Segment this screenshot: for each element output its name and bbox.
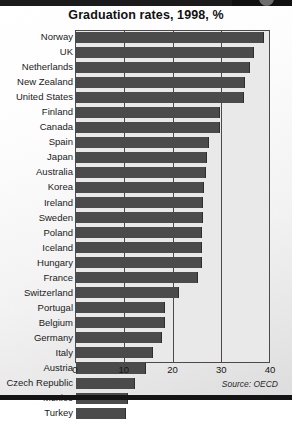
category-label: Sweden — [0, 212, 73, 224]
bar — [76, 272, 198, 283]
bar — [76, 182, 204, 193]
bar — [76, 332, 162, 343]
bar — [76, 32, 264, 43]
chart-title: Graduation rates, 1998, % — [0, 8, 292, 22]
category-label: New Zealand — [0, 76, 73, 88]
x-tick-label: 10 — [118, 364, 129, 375]
bar-row: Hungary — [0, 256, 292, 271]
bar-row: New Zealand — [0, 75, 292, 90]
bar — [76, 257, 202, 268]
bar — [76, 287, 179, 298]
bar-row: Switzerland — [0, 286, 292, 301]
category-label: Finland — [0, 106, 73, 118]
category-label: Portugal — [0, 302, 73, 314]
bar-row: Iceland — [0, 241, 292, 256]
category-label: Japan — [0, 151, 73, 163]
bar — [76, 197, 203, 208]
bar-row: Korea — [0, 180, 292, 195]
category-label: Hungary — [0, 257, 73, 269]
bar — [76, 107, 220, 118]
category-label: Belgium — [0, 317, 73, 329]
bar-row: Finland — [0, 105, 292, 120]
bar — [76, 167, 206, 178]
category-label: Poland — [0, 227, 73, 239]
category-label: Czech Republic — [0, 377, 73, 389]
bar-row: Australia — [0, 165, 292, 180]
category-label: Netherlands — [0, 61, 73, 73]
x-tick-label: 20 — [167, 364, 178, 375]
category-label: Spain — [0, 136, 73, 148]
bar — [76, 92, 244, 103]
bar — [76, 47, 254, 58]
category-label: France — [0, 272, 73, 284]
category-label: Canada — [0, 121, 73, 133]
bar — [76, 302, 165, 313]
bar-row: United States — [0, 90, 292, 105]
bar-row: France — [0, 271, 292, 286]
bar-row: Poland — [0, 226, 292, 241]
bar — [76, 212, 203, 223]
category-label: Iceland — [0, 242, 73, 254]
bar — [76, 242, 202, 253]
bar-row: Germany — [0, 331, 292, 346]
source-note: Source: OECD — [222, 379, 278, 389]
bar-row: Belgium — [0, 316, 292, 331]
category-label: UK — [0, 46, 73, 58]
x-axis: 010203040 — [0, 364, 292, 378]
category-label: Ireland — [0, 197, 73, 209]
x-tick-label: 0 — [72, 364, 77, 375]
bar-row: Canada — [0, 120, 292, 135]
category-label: Australia — [0, 166, 73, 178]
bar — [76, 122, 220, 133]
bar — [76, 77, 245, 88]
bar — [76, 378, 135, 389]
category-label: Germany — [0, 332, 73, 344]
bar-row: Turkey — [0, 406, 292, 421]
x-tick-label: 40 — [265, 364, 276, 375]
category-label: Turkey — [0, 407, 73, 419]
bottom-border-band — [0, 395, 292, 400]
bar-row: Portugal — [0, 301, 292, 316]
bar — [76, 62, 250, 73]
bar-row: Italy — [0, 346, 292, 361]
bar — [76, 227, 202, 238]
bar-row: Norway — [0, 30, 292, 45]
bar-row: UK — [0, 45, 292, 60]
bar — [76, 347, 153, 358]
category-label: Switzerland — [0, 287, 73, 299]
category-label: Norway — [0, 31, 73, 43]
bar — [76, 137, 209, 148]
category-label: United States — [0, 91, 73, 103]
bar — [76, 317, 165, 328]
category-label: Italy — [0, 347, 73, 359]
category-label: Korea — [0, 181, 73, 193]
bar-row: Ireland — [0, 196, 292, 211]
bar-row: Netherlands — [0, 60, 292, 75]
bar-row: Japan — [0, 150, 292, 165]
bar-rows: NorwayUKNetherlandsNew ZealandUnited Sta… — [0, 30, 292, 363]
bar-row: Spain — [0, 135, 292, 150]
x-tick-label: 30 — [216, 364, 227, 375]
bar — [76, 408, 126, 419]
bar-row: Sweden — [0, 211, 292, 226]
bar — [76, 152, 207, 163]
